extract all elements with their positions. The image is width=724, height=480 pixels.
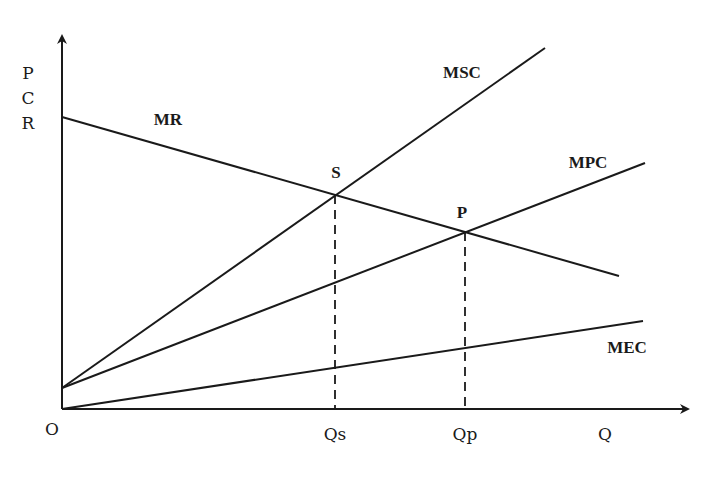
mec-curve bbox=[62, 321, 643, 409]
origin-label: O bbox=[45, 419, 59, 439]
mpc-curve bbox=[62, 163, 645, 388]
mpc-label: MPC bbox=[569, 153, 608, 172]
mr-label: MR bbox=[154, 110, 183, 129]
x-axis-label: Q bbox=[598, 424, 612, 444]
y-axis-label-r: R bbox=[22, 113, 36, 133]
y-axis-label-p: P bbox=[22, 63, 33, 83]
qs-label: Qs bbox=[324, 424, 347, 444]
point-p-label: P bbox=[457, 203, 467, 222]
mr-curve bbox=[62, 117, 619, 276]
msc-curve bbox=[62, 48, 545, 388]
externality-diagram: P C R O Qs Qp Q MR MSC MPC MEC S P bbox=[0, 0, 724, 480]
mec-label: MEC bbox=[607, 338, 647, 357]
msc-label: MSC bbox=[443, 63, 481, 82]
qp-label: Qp bbox=[453, 424, 478, 444]
point-s-label: S bbox=[331, 163, 340, 182]
y-axis-label-c: C bbox=[21, 88, 34, 108]
